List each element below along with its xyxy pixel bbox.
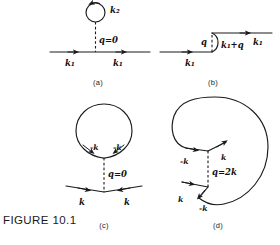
- panel-b-exchange-label: q: [201, 37, 207, 47]
- panel-b-sublabel: (b): [208, 78, 218, 87]
- panel-a-exchange-label: q=0: [99, 35, 118, 45]
- panel-d-sublabel: (d): [213, 221, 223, 230]
- panel-b-out-label: k₁: [253, 37, 263, 47]
- panel-a-in-label: k₁: [65, 58, 75, 68]
- panel-d-lower-left-arrow: [182, 182, 192, 184]
- panel-d-lower-right-label: -k: [199, 204, 207, 213]
- panel-d-lower-left-label: k: [178, 195, 183, 204]
- panel-a-sublabel: (a): [93, 78, 103, 87]
- panel-c-out-left-label: k: [79, 197, 85, 207]
- panel-d-upper-right-label: k: [221, 153, 226, 162]
- figure-caption: FIGURE 10.1: [3, 214, 76, 226]
- panel-b: q k₁ k₁+q k₁ (b): [160, 33, 272, 87]
- panel-d: -k k q=2k k -k (d): [172, 97, 268, 230]
- panel-c-loop-left-label: -k: [90, 143, 98, 152]
- panel-b-in-label: k₁: [185, 58, 195, 68]
- panel-d-outer-loop: [172, 97, 268, 205]
- panel-c-sublabel: (c): [99, 221, 109, 230]
- panel-c-loop-right-label: -k: [113, 143, 121, 152]
- panel-c-exchange-label: q=0: [108, 169, 127, 179]
- feynman-diagram-figure: k₂ q=0 k₁ k₁ (a) q k₁ k₁+q k₁ (b): [0, 0, 280, 245]
- panel-a-out-label: k₁: [113, 58, 123, 68]
- panel-d-exchange-label: q=2k: [212, 167, 237, 177]
- panel-b-loop-momentum-label: k₁+q: [221, 40, 244, 50]
- panel-d-upper-right-arrow: [217, 142, 225, 147]
- panel-d-upper-left-label: -k: [180, 157, 188, 166]
- panel-a-loop: [86, 3, 105, 22]
- panel-a-loop-momentum-label: k₂: [110, 5, 120, 15]
- panel-c-out-right-label: k: [124, 197, 130, 207]
- panel-d-lower-right-arrow: [199, 190, 205, 197]
- panel-b-loop-arc: [212, 33, 218, 52]
- panel-c-loop: [76, 104, 132, 158]
- panel-a: k₂ q=0 k₁ k₁ (a): [50, 3, 150, 87]
- panel-c: -k -k q=0 k k (c): [66, 104, 142, 230]
- figure-container: k₂ q=0 k₁ k₁ (a) q k₁ k₁+q k₁ (b): [0, 0, 280, 245]
